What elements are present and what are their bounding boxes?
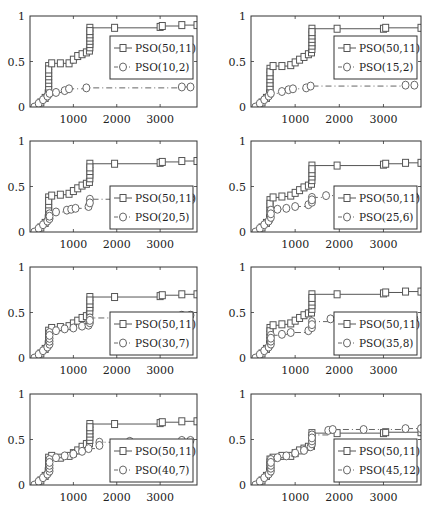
y-tick-label: 0.5 xyxy=(8,56,26,69)
x-tick-label: 1000 xyxy=(281,113,309,126)
circle-marker-icon xyxy=(287,329,294,337)
y-tick-label: 0.5 xyxy=(8,181,26,194)
legend: PSO(50,11)PSO(25,6) xyxy=(334,186,420,229)
square-marker-icon xyxy=(334,291,340,298)
legend-square-icon xyxy=(344,448,350,455)
y-tick-label: 1 xyxy=(239,388,246,401)
circle-marker-icon xyxy=(83,84,90,92)
square-marker-icon xyxy=(270,194,276,201)
x-tick-label: 3000 xyxy=(146,238,174,251)
square-marker-icon xyxy=(112,24,118,31)
circle-marker-icon xyxy=(61,452,68,460)
subplot-7: 00.51100020003000PSO(50,11)PSO(40,7) xyxy=(8,388,201,504)
subplot-5: 00.51100020003000PSO(50,11)PSO(30,7) xyxy=(8,261,201,377)
square-marker-icon xyxy=(334,25,340,32)
legend: PSO(50,11)PSO(45,12) xyxy=(334,439,420,482)
legend-label: PSO(15,2) xyxy=(359,61,413,73)
circle-marker-icon xyxy=(53,88,60,96)
square-marker-icon xyxy=(279,63,285,70)
x-tick-label: 2000 xyxy=(325,491,353,504)
y-tick-label: 0.5 xyxy=(8,307,26,320)
legend-circle-icon xyxy=(120,339,127,347)
y-tick-label: 1 xyxy=(239,135,246,148)
legend: PSO(50,11)PSO(35,8) xyxy=(334,312,420,355)
square-marker-icon xyxy=(309,294,315,301)
y-tick-label: 0 xyxy=(18,101,25,114)
subplot-4: 00.51100020003000PSO(50,11)PSO(25,6) xyxy=(229,135,425,251)
x-tick-label: 3000 xyxy=(146,364,174,377)
legend-label: PSO(10,2) xyxy=(135,61,189,73)
square-marker-icon xyxy=(49,60,55,67)
square-marker-icon xyxy=(279,193,285,200)
y-tick-label: 0.5 xyxy=(8,434,26,447)
legend-label: PSO(50,11) xyxy=(359,192,420,204)
circle-marker-icon xyxy=(53,327,60,335)
x-tick-label: 2000 xyxy=(103,238,131,251)
circle-marker-icon xyxy=(72,204,79,212)
circle-marker-icon xyxy=(327,315,334,323)
square-marker-icon xyxy=(112,160,118,167)
circle-marker-icon xyxy=(292,449,299,457)
legend: PSO(50,11)PSO(30,7) xyxy=(110,312,196,355)
legend-label: PSO(50,11) xyxy=(359,445,420,457)
legend-label: PSO(45,12) xyxy=(359,464,420,476)
legend-square-icon xyxy=(344,195,350,202)
y-tick-label: 0 xyxy=(18,479,25,492)
x-tick-label: 2000 xyxy=(325,238,353,251)
legend-label: PSO(50,11) xyxy=(135,42,196,54)
circle-marker-icon xyxy=(274,205,281,213)
square-marker-icon xyxy=(383,289,389,296)
y-tick-label: 0 xyxy=(239,101,246,114)
square-marker-icon xyxy=(334,162,340,169)
square-marker-icon xyxy=(159,158,165,165)
y-tick-label: 0.5 xyxy=(229,181,247,194)
circle-marker-icon xyxy=(292,203,299,211)
x-tick-label: 1000 xyxy=(59,364,87,377)
square-marker-icon xyxy=(403,288,409,295)
legend: PSO(50,11)PSO(15,2) xyxy=(334,36,420,79)
y-tick-label: 1 xyxy=(18,388,25,401)
legend-circle-icon xyxy=(344,63,351,71)
square-marker-icon xyxy=(383,160,389,167)
y-tick-label: 0 xyxy=(239,352,246,365)
square-marker-icon xyxy=(270,63,276,70)
legend-square-icon xyxy=(344,45,350,52)
square-marker-icon xyxy=(112,421,118,428)
circle-marker-icon xyxy=(308,321,315,329)
circle-marker-icon xyxy=(402,81,409,89)
circle-marker-icon xyxy=(61,325,68,333)
legend-label: PSO(40,7) xyxy=(135,464,189,476)
circle-marker-icon xyxy=(46,458,53,466)
circle-marker-icon xyxy=(323,192,330,200)
circle-marker-icon xyxy=(79,447,86,455)
square-marker-icon xyxy=(87,164,93,171)
square-marker-icon xyxy=(270,322,276,329)
square-marker-icon xyxy=(403,159,409,166)
x-tick-label: 2000 xyxy=(325,113,353,126)
legend-label: PSO(30,7) xyxy=(135,337,189,349)
circle-marker-icon xyxy=(274,454,281,462)
circle-marker-icon xyxy=(402,425,409,433)
circle-marker-icon xyxy=(86,199,93,207)
y-tick-label: 0.5 xyxy=(229,56,247,69)
circle-marker-icon xyxy=(267,89,274,97)
circle-marker-icon xyxy=(267,210,274,218)
square-marker-icon xyxy=(159,419,165,426)
y-tick-label: 0 xyxy=(18,352,25,365)
circle-marker-icon xyxy=(360,425,367,433)
x-tick-label: 3000 xyxy=(369,238,397,251)
circle-marker-icon xyxy=(411,81,418,89)
legend-square-icon xyxy=(120,321,126,328)
circle-marker-icon xyxy=(66,85,73,93)
x-tick-label: 3000 xyxy=(369,491,397,504)
y-tick-label: 1 xyxy=(239,261,246,274)
x-tick-label: 1000 xyxy=(281,491,309,504)
circle-marker-icon xyxy=(283,452,290,460)
legend-square-icon xyxy=(344,321,350,328)
subplot-6: 00.51100020003000PSO(50,11)PSO(35,8) xyxy=(229,261,425,377)
circle-marker-icon xyxy=(46,331,53,339)
legend: PSO(50,11)PSO(40,7) xyxy=(110,439,196,482)
legend-square-icon xyxy=(120,45,126,52)
circle-marker-icon xyxy=(46,89,53,97)
circle-marker-icon xyxy=(86,316,93,324)
